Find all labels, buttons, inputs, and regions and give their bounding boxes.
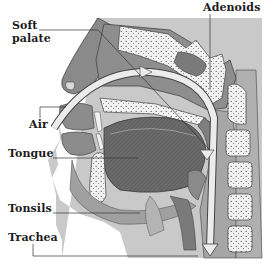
vertebra-3 [228,194,252,220]
vertebra-1 [226,130,250,156]
vertebra-top [228,84,246,124]
label-soft-palate-line1: Soft [12,20,38,32]
label-trachea: Trachea [8,232,58,244]
label-adenoids: Adenoids [203,2,260,14]
airway-diagram: Soft palate Adenoids Air Tongue Tonsils … [0,0,273,266]
vertebra-2 [228,162,252,188]
label-tongue: Tongue [8,148,54,160]
label-tonsils: Tonsils [8,203,52,215]
label-soft-palate-line2: palate [12,33,51,45]
label-air: Air [29,119,48,131]
vertebra-4 [228,226,252,252]
